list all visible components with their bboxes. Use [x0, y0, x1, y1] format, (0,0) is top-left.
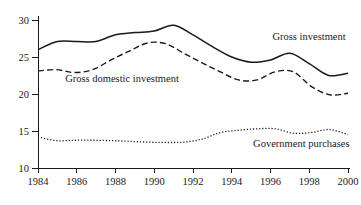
y-tick-label: 30	[19, 15, 30, 26]
series-label-group: Gross investmentGross domestic investmen…	[65, 31, 349, 149]
series-label-2: Government purchases	[253, 138, 350, 149]
x-tick-label: 1988	[105, 176, 126, 187]
x-tick-label: 1994	[221, 176, 243, 187]
y-tick-group: 1015202530	[19, 15, 39, 174]
x-tick-label: 1998	[299, 176, 320, 187]
x-tick-label: 1984	[28, 176, 50, 187]
x-tick-label: 1996	[260, 176, 281, 187]
y-tick-label: 20	[19, 89, 30, 100]
x-tick-label: 1986	[66, 176, 87, 187]
y-tick-label: 15	[19, 126, 30, 137]
series-line-1	[38, 42, 348, 95]
x-tick-group: 198419861988199019921994199619982000	[28, 168, 359, 187]
chart-container: 1015202530 19841986198819901992199419961…	[0, 0, 361, 205]
y-tick-label: 25	[19, 52, 30, 63]
x-axis: 198419861988199019921994199619982000	[28, 168, 359, 187]
x-tick-label: 2000	[338, 176, 359, 187]
x-tick-label: 1992	[183, 176, 204, 187]
series-label-1: Gross domestic investment	[65, 73, 179, 84]
y-tick-label: 10	[19, 163, 30, 174]
series-label-0: Gross investment	[272, 31, 345, 42]
x-tick-label: 1990	[144, 176, 165, 187]
line-chart: 1015202530 19841986198819901992199419961…	[0, 0, 361, 205]
y-axis: 1015202530	[19, 15, 39, 174]
